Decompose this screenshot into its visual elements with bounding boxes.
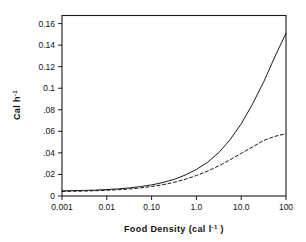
y-tick-label: .04 bbox=[43, 148, 55, 158]
figure-container: 0.02.04.06.080.10.120.140.16 0.0010.010.… bbox=[0, 0, 306, 242]
x-tick-label: 10.0 bbox=[233, 202, 250, 212]
x-tick-label: 0.001 bbox=[51, 202, 73, 212]
y-tick-label: .06 bbox=[43, 126, 55, 136]
x-tick-label: 100 bbox=[279, 202, 293, 212]
x-tick-label: 0.10 bbox=[143, 202, 160, 212]
x-tick-label: 0.01 bbox=[99, 202, 116, 212]
y-tick-label: 0.1 bbox=[43, 83, 55, 93]
x-axis-title: Food Density (cal l-1 ) bbox=[124, 224, 224, 234]
y-tick-label: 0 bbox=[50, 191, 55, 201]
y-tick-label: 0.16 bbox=[38, 19, 55, 29]
y-tick-label: 0.12 bbox=[38, 62, 55, 72]
y-tick-label: .02 bbox=[43, 169, 55, 179]
chart-canvas: 0.02.04.06.080.10.120.140.16 0.0010.010.… bbox=[0, 0, 306, 242]
y-tick-label: .08 bbox=[43, 105, 55, 115]
x-tick-label: 1.0 bbox=[190, 202, 202, 212]
y-tick-label: 0.14 bbox=[38, 40, 55, 50]
